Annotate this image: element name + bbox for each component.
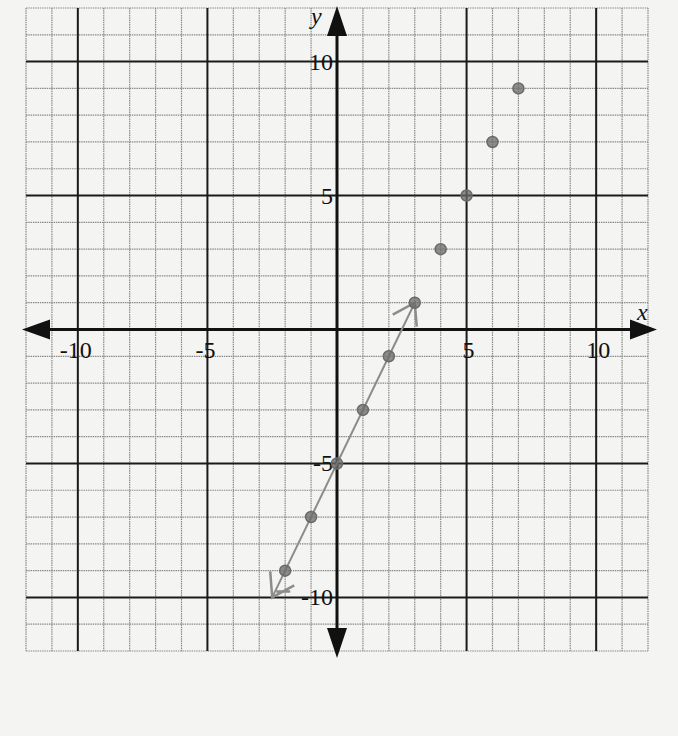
data-point bbox=[487, 136, 498, 147]
x-axis-label: x bbox=[636, 299, 648, 325]
data-point bbox=[383, 351, 394, 362]
data-point bbox=[332, 458, 343, 469]
coordinate-plane: xy-10-5510105-5-10 bbox=[0, 0, 678, 736]
x-axis-left-arrow-icon bbox=[22, 320, 50, 340]
y-tick-label: -10 bbox=[301, 584, 333, 610]
data-point bbox=[435, 244, 446, 255]
x-tick-label: -5 bbox=[195, 337, 215, 363]
data-point bbox=[513, 83, 524, 94]
x-tick-label: 5 bbox=[463, 337, 475, 363]
drawn-line bbox=[272, 303, 415, 598]
y-axis-label: y bbox=[309, 3, 322, 29]
data-point bbox=[409, 297, 420, 308]
y-axis-up-arrow-icon bbox=[327, 6, 347, 36]
data-point bbox=[280, 565, 291, 576]
y-tick-label: 10 bbox=[309, 49, 333, 75]
data-point bbox=[461, 190, 472, 201]
y-axis-down-arrow-icon bbox=[327, 628, 347, 658]
x-tick-label: -10 bbox=[60, 337, 92, 363]
data-point bbox=[306, 512, 317, 523]
x-tick-label: 10 bbox=[586, 337, 610, 363]
y-tick-label: 5 bbox=[321, 183, 333, 209]
y-tick-label: -5 bbox=[313, 450, 333, 476]
data-point bbox=[357, 404, 368, 415]
